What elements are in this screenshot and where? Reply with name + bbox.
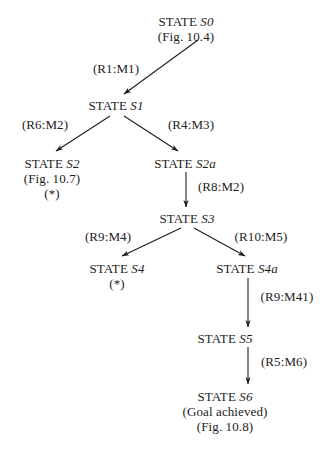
node-s2: STATE S2 (Fig. 10.7) (*) xyxy=(24,156,80,201)
node-s4a-title: STATE S4a xyxy=(216,261,278,276)
node-s2-symbol: S2 xyxy=(66,156,79,171)
node-s4-title: STATE S4 xyxy=(89,261,144,276)
edge-label-r1-m1: (R1:M1) xyxy=(93,61,139,77)
node-s6-title: STATE S6 xyxy=(183,389,268,404)
diagram-edges xyxy=(0,0,329,456)
edge-label-r10-m5: (R10:M5) xyxy=(235,229,288,245)
edge-label-r9-m4: (R9:M4) xyxy=(85,229,131,245)
node-s0-title: STATE S0 xyxy=(158,14,214,29)
node-s1-title: STATE S1 xyxy=(88,98,143,113)
state-transition-diagram: STATE S0 (Fig. 10.4) STATE S1 STATE S2 (… xyxy=(0,0,329,456)
node-s3-symbol: S3 xyxy=(201,211,214,226)
node-s4a: STATE S4a xyxy=(216,261,278,276)
node-s6-note: (Goal achieved) xyxy=(183,404,268,419)
edge-label-r8-m2: (R8:M2) xyxy=(198,179,244,195)
node-s0-note: (Fig. 10.4) xyxy=(158,29,214,44)
edge-label-r4-m3: (R4:M3) xyxy=(168,117,214,133)
node-s5-symbol: S5 xyxy=(239,331,252,346)
node-s4a-symbol: S4a xyxy=(258,261,278,276)
node-s4-marker: (*) xyxy=(89,276,144,291)
node-s0-symbol: S0 xyxy=(200,14,213,29)
node-s2-title: STATE S2 xyxy=(24,156,80,171)
node-s5: STATE S5 xyxy=(197,331,252,346)
node-s2-marker: (*) xyxy=(24,186,80,201)
node-s2a: STATE S2a xyxy=(154,156,216,171)
node-s3-title: STATE S3 xyxy=(159,211,214,226)
node-s6-note-2: (Fig. 10.8) xyxy=(183,419,268,434)
node-s2-note: (Fig. 10.7) xyxy=(24,171,80,186)
node-s2a-title: STATE S2a xyxy=(154,156,216,171)
node-s1-symbol: S1 xyxy=(130,98,143,113)
node-s2a-symbol: S2a xyxy=(196,156,216,171)
edge-label-r6-m2: (R6:M2) xyxy=(22,117,68,133)
node-s6-symbol: S6 xyxy=(239,389,252,404)
edge-label-r5-m6: (R5:M6) xyxy=(261,354,307,370)
edge-label-r9-m41: (R9:M41) xyxy=(261,289,314,305)
node-s4-symbol: S4 xyxy=(131,261,144,276)
node-s4: STATE S4 (*) xyxy=(89,261,144,291)
node-s3: STATE S3 xyxy=(159,211,214,226)
node-s6: STATE S6 (Goal achieved) (Fig. 10.8) xyxy=(183,389,268,434)
node-s1: STATE S1 xyxy=(88,98,143,113)
node-s0: STATE S0 (Fig. 10.4) xyxy=(158,14,214,44)
node-s5-title: STATE S5 xyxy=(197,331,252,346)
